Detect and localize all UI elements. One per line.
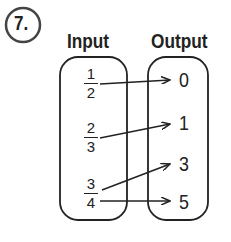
denominator: 4 — [84, 195, 98, 211]
input-fraction: 34 — [84, 176, 98, 211]
arrow-half-to-0 — [100, 80, 170, 84]
output-value: 3 — [179, 152, 189, 176]
denominator: 3 — [84, 139, 98, 155]
output-header: Output — [151, 29, 207, 53]
arrow-two-thirds-to-1 — [100, 124, 170, 138]
output-value: 0 — [179, 68, 189, 92]
numerator: 1 — [84, 66, 98, 82]
problem-number: 7. — [14, 12, 28, 35]
input-fraction: 12 — [84, 66, 98, 101]
output-value: 5 — [179, 190, 189, 214]
output-value: 1 — [179, 111, 189, 135]
denominator: 2 — [84, 85, 98, 101]
input-fraction: 23 — [84, 120, 98, 155]
numerator: 3 — [84, 176, 98, 192]
input-header: Input — [67, 29, 109, 53]
arrow-three-fourths-to-3 — [102, 164, 170, 190]
numerator: 2 — [84, 120, 98, 136]
